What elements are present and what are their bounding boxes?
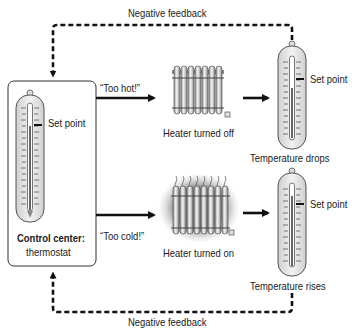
radiator-off-icon bbox=[172, 66, 230, 117]
top-feedback-loop bbox=[53, 25, 292, 74]
rises-setpoint-label: Set point bbox=[310, 198, 347, 210]
drops-setpoint-label: Set point bbox=[310, 73, 347, 85]
control-center-title: Control center: bbox=[17, 232, 85, 244]
temperature-drops-label: Temperature drops bbox=[250, 152, 329, 164]
thermometer-rises-icon bbox=[278, 168, 306, 276]
temperature-rises-label: Temperature rises bbox=[250, 280, 326, 292]
too-cold-signal: “Too cold!” bbox=[100, 230, 144, 242]
top-feedback-arrow bbox=[52, 25, 112, 76]
control-setpoint-label: Set point bbox=[48, 117, 85, 129]
heater-on-label: Heater turned on bbox=[163, 247, 234, 259]
control-center-subtitle: thermostat bbox=[26, 246, 71, 258]
control-thermometer-icon bbox=[16, 90, 44, 222]
bottom-feedback-label: Negative feedback bbox=[128, 316, 206, 328]
heater-off-label: Heater turned off bbox=[163, 127, 234, 139]
top-feedback-label: Negative feedback bbox=[128, 7, 206, 19]
radiator-on-icon bbox=[159, 174, 239, 242]
too-hot-signal: “Too hot!” bbox=[100, 82, 140, 94]
thermometer-drops-icon bbox=[278, 41, 306, 149]
